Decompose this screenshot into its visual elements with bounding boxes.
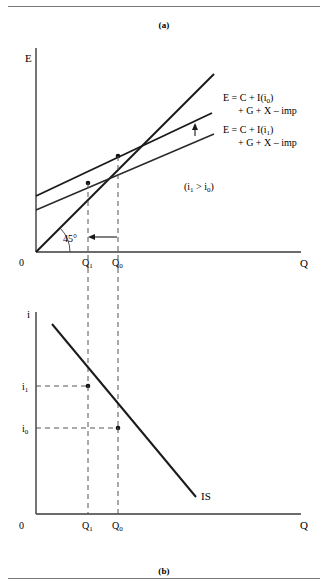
- panel-b-tick-q0: Q0: [112, 520, 123, 533]
- panel-b-tick-i0: i0: [22, 423, 29, 436]
- panel-b-tick-i1: i1: [22, 381, 29, 394]
- is-curve-label: IS: [201, 490, 211, 502]
- is-curve: [52, 324, 196, 497]
- figure-container: (a) (b) E Q 0 45° Q1 Q0: [0, 0, 328, 586]
- panel-b-x-axis-label: Q: [300, 519, 308, 531]
- panel-b-y-axis-label: i: [27, 308, 30, 320]
- panel-b-origin-label: 0: [19, 520, 24, 531]
- panel-b-chart: i Q 0 i1 i0 Q1 Q0 IS: [0, 0, 328, 586]
- panel-b-tick-q1: Q1: [82, 520, 93, 533]
